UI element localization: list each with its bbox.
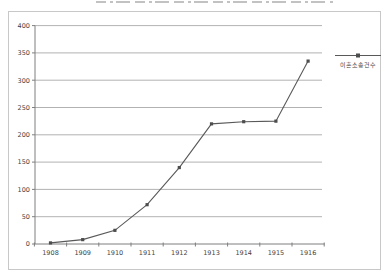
y-tick-label: 100 (18, 186, 30, 194)
y-tick-label: 400 (18, 22, 30, 30)
y-tick-label: 350 (18, 49, 30, 57)
data-point-marker (274, 120, 277, 123)
chart-frame (9, 12, 381, 270)
y-tick-label: 300 (18, 77, 30, 85)
data-point-marker (146, 203, 149, 206)
y-tick-label: 250 (18, 104, 30, 112)
x-tick-label: 1915 (268, 249, 285, 257)
x-tick-label: 1913 (203, 249, 220, 257)
data-point-marker (210, 122, 213, 125)
data-point-marker (307, 59, 310, 62)
legend-series-label: 이혼소송건수 (331, 61, 385, 69)
data-point-marker (81, 238, 84, 241)
chart-legend: 이혼소송건수 (331, 51, 385, 69)
x-tick-label: 1912 (171, 249, 188, 257)
y-tick-label: 150 (18, 158, 30, 166)
data-point-marker (178, 166, 181, 169)
x-tick-label: 1916 (300, 249, 317, 257)
data-point-marker (49, 241, 52, 244)
chart-page: 0501001502002503003504001908190919101911… (0, 0, 389, 277)
x-tick-label: 1911 (139, 249, 156, 257)
y-tick-label: 200 (18, 131, 30, 139)
x-tick-label: 1908 (42, 249, 59, 257)
line-chart: 0501001502002503003504001908190919101911… (0, 0, 389, 277)
legend-marker-icon (334, 51, 382, 60)
x-tick-label: 1914 (235, 249, 252, 257)
y-tick-label: 50 (22, 213, 30, 221)
y-tick-label: 0 (26, 240, 30, 248)
data-point-marker (113, 229, 116, 232)
x-tick-label: 1909 (74, 249, 91, 257)
x-tick-label: 1910 (107, 249, 124, 257)
data-point-marker (242, 120, 245, 123)
